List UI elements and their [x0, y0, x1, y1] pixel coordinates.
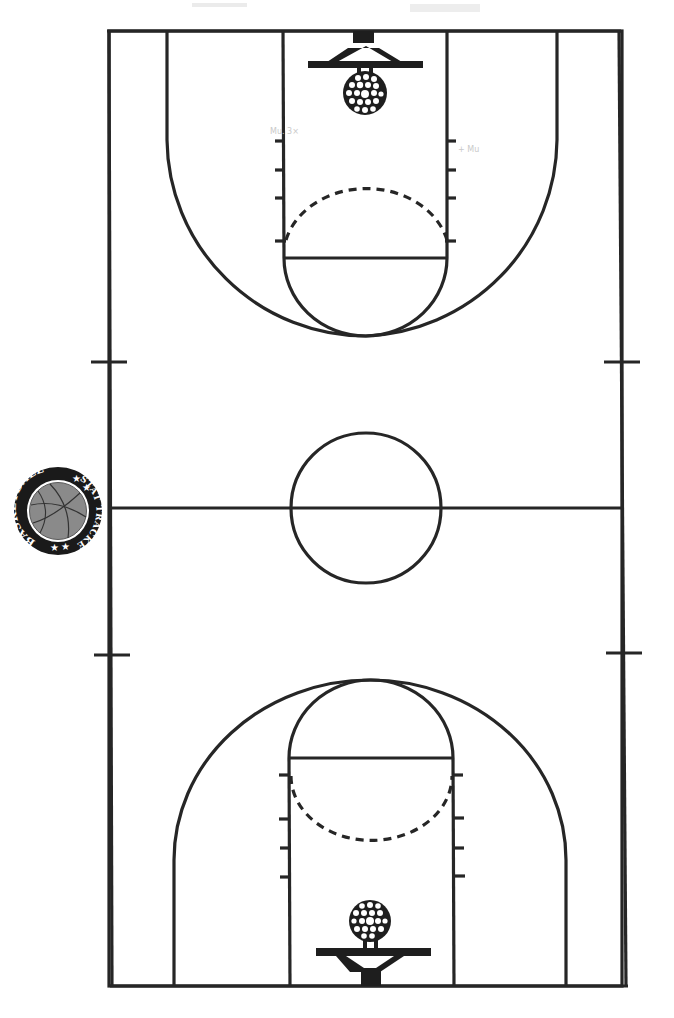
- basketball-court-diagram: Mu. 3× + Mu: [0, 0, 674, 1018]
- svg-text:★: ★: [50, 542, 59, 553]
- basketball-stat-tracker-logo: BASKETBALL STAT TRACKER ★ ★ ★ ★: [6, 462, 105, 555]
- svg-text:★: ★: [72, 473, 81, 484]
- bottom-half: [174, 680, 566, 986]
- top-free-throw-circle-dashed: [286, 189, 447, 240]
- bottom-key-right: [453, 758, 454, 986]
- top-lane-ticks: [275, 141, 456, 241]
- svg-text:Mu. 3×: Mu. 3×: [270, 127, 299, 136]
- svg-text:+ Mu: + Mu: [458, 145, 479, 154]
- top-basket-icon: [308, 31, 423, 115]
- svg-text:★: ★: [82, 482, 91, 493]
- bottom-free-throw-circle-solid: [289, 680, 453, 758]
- top-half: Mu. 3× + Mu: [167, 31, 557, 336]
- bottom-free-throw-circle-dashed: [291, 776, 452, 840]
- bottom-basket-icon: [316, 900, 431, 986]
- bottom-lane-ticks: [279, 775, 465, 877]
- svg-text:★: ★: [61, 541, 70, 552]
- bottom-key-left: [289, 758, 290, 986]
- top-key-left: [283, 31, 284, 258]
- scan-artifacts: [192, 3, 480, 12]
